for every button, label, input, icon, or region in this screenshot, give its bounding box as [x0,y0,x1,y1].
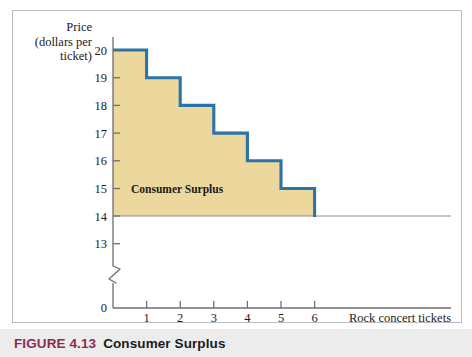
x-axis-ticks [147,301,315,308]
x-tick-label-4: 4 [244,311,251,324]
y-axis-break-zigzag [109,266,120,283]
y-axis-title-line2: (dollars per [35,35,93,49]
y-tick-label-14: 14 [95,210,108,224]
y-tick-label-15: 15 [95,182,108,196]
x-axis-title: Rock concert tickets [349,311,451,324]
y-tick-label-19: 19 [95,71,108,85]
y-axis-origin-label: 0 [101,301,107,315]
figure-frame: 20 19 18 17 16 15 14 13 0 Price (dollars… [12,10,462,323]
x-tick-label-1: 1 [143,311,149,324]
x-tick-label-5: 5 [278,311,284,324]
x-tick-label-6: 6 [311,311,317,324]
x-tick-label-3: 3 [211,311,217,324]
consumer-surplus-label: Consumer Surplus [131,183,224,196]
y-tick-label-17: 17 [95,127,108,141]
consumer-surplus-chart: 20 19 18 17 16 15 14 13 0 Price (dollars… [13,11,463,324]
figure-title: Consumer Surplus [103,336,225,351]
x-tick-label-2: 2 [177,311,183,324]
y-axis-title-line1: Price [66,20,92,34]
figure-number: FIGURE 4.13 [14,336,96,351]
figure-caption-band: FIGURE 4.13Consumer Surplus [0,329,472,357]
y-axis-title-line3: ticket) [60,49,92,63]
y-tick-label-18: 18 [95,99,108,113]
y-tick-label-16: 16 [95,154,108,168]
y-tick-label-20: 20 [95,44,108,58]
y-tick-label-13: 13 [95,237,108,251]
figure-caption: FIGURE 4.13Consumer Surplus [0,336,226,351]
